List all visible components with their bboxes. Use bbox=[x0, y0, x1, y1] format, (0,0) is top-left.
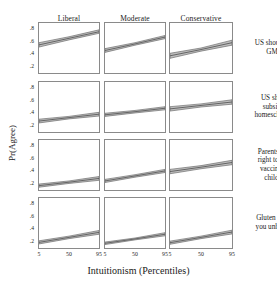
facet-panel bbox=[104, 197, 166, 249]
x-axis-title: Intuitionism (Percentiles) bbox=[0, 265, 277, 276]
x-tick-label: 5 bbox=[33, 252, 45, 258]
y-tick-label: .6 bbox=[25, 98, 34, 104]
row-label-line: children bbox=[238, 174, 277, 183]
y-tick-label: .6 bbox=[25, 156, 34, 162]
fit-line bbox=[170, 43, 232, 56]
y-axis-title: Pr(Agree) bbox=[7, 113, 17, 173]
facet-panel bbox=[169, 197, 233, 249]
row-label-line: right to deny bbox=[238, 156, 277, 165]
y-tick-label: .8 bbox=[25, 143, 34, 149]
fit-line bbox=[39, 232, 99, 242]
y-tick-label: .8 bbox=[25, 26, 34, 32]
y-tick-label: .8 bbox=[25, 201, 34, 207]
y-tick-label: .8 bbox=[25, 85, 34, 91]
y-tick-label: .2 bbox=[25, 123, 34, 129]
row-label-line: US should ban bbox=[238, 39, 277, 48]
fit-line bbox=[170, 232, 232, 243]
x-tick-label: 50 bbox=[195, 252, 207, 258]
y-tick-label: .4 bbox=[25, 51, 34, 57]
row-label-line: homeschoolers bbox=[238, 111, 277, 120]
y-tick-label: .4 bbox=[25, 226, 34, 232]
fit-line bbox=[105, 171, 165, 181]
facet-panel bbox=[104, 22, 166, 74]
y-tick-label: .2 bbox=[25, 239, 34, 245]
row-label: Gluten makesyou unhealthy bbox=[238, 214, 277, 231]
figure-canvas: Liberal Moderate Conservative Pr(Agree) … bbox=[0, 0, 277, 285]
x-tick-label: 95 bbox=[226, 252, 238, 258]
y-tick-label: .6 bbox=[25, 39, 34, 45]
row-label: US should banGMOs bbox=[238, 39, 277, 56]
y-tick-label: .4 bbox=[25, 168, 34, 174]
facet-panel bbox=[38, 139, 100, 191]
y-tick-label: .2 bbox=[25, 181, 34, 187]
fit-line bbox=[170, 102, 232, 109]
x-tick-label: 50 bbox=[63, 252, 75, 258]
y-tick-label: .6 bbox=[25, 214, 34, 220]
x-tick-label: 50 bbox=[129, 252, 141, 258]
fit-line bbox=[170, 163, 232, 172]
facet-panel bbox=[169, 22, 233, 74]
x-tick-label: 5 bbox=[164, 252, 176, 258]
row-label-line: US should bbox=[238, 94, 277, 103]
row-label-line: GMOs bbox=[238, 48, 277, 57]
facet-panel bbox=[169, 139, 233, 191]
row-label-line: Gluten makes bbox=[238, 214, 277, 223]
row-label-line: you unhealthy bbox=[238, 223, 277, 232]
fit-line bbox=[39, 178, 99, 185]
fit-line bbox=[39, 32, 99, 45]
facet-panel bbox=[169, 81, 233, 133]
fit-line bbox=[105, 37, 165, 50]
facet-panel bbox=[104, 81, 166, 133]
row-label-line: Parents have bbox=[238, 148, 277, 157]
facet-panel bbox=[104, 139, 166, 191]
facet-panel bbox=[38, 81, 100, 133]
fit-line bbox=[105, 234, 165, 243]
row-label: Parents haveright to denyvaccines tochil… bbox=[238, 148, 277, 182]
fit-line bbox=[39, 114, 99, 121]
row-label-line: vaccines to bbox=[238, 165, 277, 174]
facet-panel bbox=[38, 22, 100, 74]
y-tick-label: .4 bbox=[25, 110, 34, 116]
row-label-line: subsidize bbox=[238, 103, 277, 112]
row-label: US shouldsubsidizehomeschoolers bbox=[238, 94, 277, 120]
fit-line bbox=[105, 108, 165, 115]
facet-panel bbox=[38, 197, 100, 249]
x-tick-label: 5 bbox=[99, 252, 111, 258]
y-tick-label: .2 bbox=[25, 64, 34, 70]
